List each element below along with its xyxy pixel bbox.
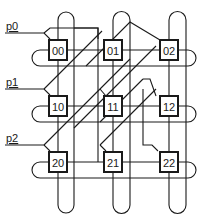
p2-to-21 <box>100 145 106 151</box>
node-11-label: 11 <box>107 101 118 113</box>
node-02: 02 <box>160 40 178 60</box>
node-10: 10 <box>49 96 67 116</box>
node-20-label: 20 <box>52 157 64 169</box>
p1-to-12 <box>143 79 156 96</box>
node-10-label: 10 <box>52 101 64 113</box>
node-02-label: 02 <box>163 45 175 57</box>
input-labels: p0 p1 p2 <box>6 20 18 144</box>
p0-label: p0 <box>6 20 18 32</box>
node-12-label: 12 <box>163 101 175 113</box>
node-01: 01 <box>104 40 122 60</box>
p0-line <box>5 33 50 39</box>
node-11: 11 <box>104 96 122 116</box>
node-22: 22 <box>160 152 178 172</box>
step-to-22 <box>143 89 158 151</box>
node-00: 00 <box>49 40 67 60</box>
input-lines <box>5 22 160 162</box>
node-00-label: 00 <box>52 45 64 57</box>
node-01-label: 01 <box>107 45 119 57</box>
torus-mesh-diagram: p0 p1 p2 00 01 02 10 11 12 <box>0 0 209 218</box>
p1-label: p1 <box>6 76 18 88</box>
node-12: 12 <box>160 96 178 116</box>
node-21: 21 <box>104 152 122 172</box>
node-20: 20 <box>49 152 67 172</box>
node-22-label: 22 <box>163 157 175 169</box>
p2-label: p2 <box>6 132 18 144</box>
p2-line <box>5 145 50 151</box>
p1-line <box>5 89 50 95</box>
node-21-label: 21 <box>107 157 119 169</box>
p1-to-11 <box>100 89 106 96</box>
p0-branch-up <box>44 28 98 39</box>
